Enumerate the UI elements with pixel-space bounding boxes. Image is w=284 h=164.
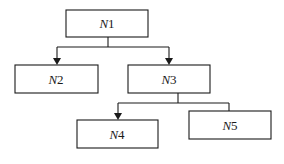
node-label-sub: 3 xyxy=(170,72,177,87)
svg-text:N2: N2 xyxy=(47,72,63,87)
arrowhead-icon xyxy=(114,113,122,120)
node-n1: N1 xyxy=(66,10,148,37)
node-n2: N2 xyxy=(15,65,98,93)
tree-diagram: N1 N2 N3 N4 N5 xyxy=(0,0,284,164)
node-label-sub: 5 xyxy=(231,118,238,133)
svg-text:N4: N4 xyxy=(108,127,125,142)
svg-text:N3: N3 xyxy=(160,72,176,87)
svg-text:N1: N1 xyxy=(98,16,114,31)
node-n5: N5 xyxy=(189,111,271,139)
node-label-sub: 2 xyxy=(57,72,64,87)
arrowhead-icon xyxy=(53,58,61,65)
edge-n1-children xyxy=(53,37,173,65)
node-label-sub: 1 xyxy=(108,16,115,31)
arrowhead-icon xyxy=(165,58,173,65)
node-label-sub: 4 xyxy=(118,127,125,142)
node-n3: N3 xyxy=(128,65,210,93)
node-n4: N4 xyxy=(77,120,158,148)
svg-text:N5: N5 xyxy=(221,118,237,133)
